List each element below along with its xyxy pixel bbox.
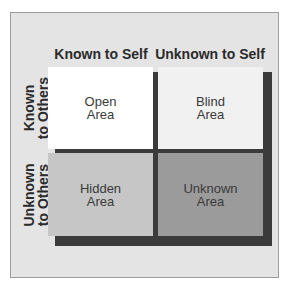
quadrant-blind-area: Blind Area [158,67,263,149]
quadrant-open-area: Open Area [48,67,153,149]
quadrant-label: Hidden [80,182,121,195]
quadrant-label: Unknown [183,182,237,195]
quadrant-label: Area [183,195,237,208]
quadrant-unknown-area: Unknown Area [158,153,263,236]
quadrant-label: Area [80,195,121,208]
quadrant-hidden-area: Hidden Area [48,153,153,236]
row-header-line: Unknown [22,155,36,235]
quadrant-label: Area [196,108,225,121]
quadrant-label: Area [85,108,117,121]
row-header-line: Known [22,68,36,148]
column-header-unknown-to-self: Unknown to Self [154,46,266,62]
column-header-known-to-self: Known to Self [48,46,154,62]
